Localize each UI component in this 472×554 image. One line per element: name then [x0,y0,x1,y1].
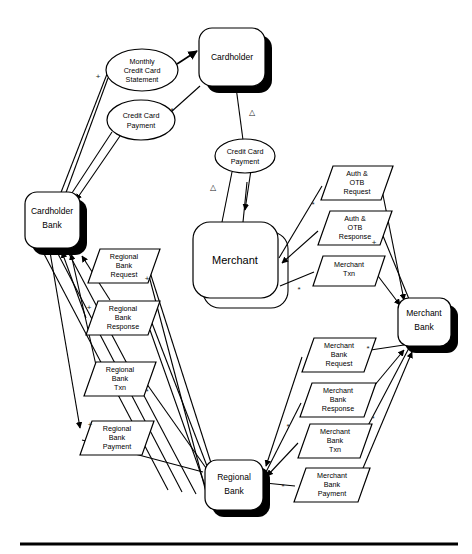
mb-response-line-2: Bank [330,395,347,404]
edge-ccpayment-from-cardholder [171,86,200,112]
edge-mb-payment-out [358,352,412,480]
marker-star-6: * [371,414,374,423]
regional-bank-label-2: Bank [224,486,244,496]
flow-regional-bank-response[interactable]: Regional Bank Response [86,301,160,335]
edge-statement-lead [64,78,108,198]
marker-plus-2: + [372,238,377,247]
marker-plus-1: + [96,72,101,81]
mb-request-line-1: Merchant [324,341,354,350]
process-cardholder[interactable]: Cardholder [199,28,272,93]
marker-star-5: * [366,344,369,353]
merchant-label: Merchant [212,254,258,266]
mb-payment-line-3: Payment [318,489,346,498]
process-cardholder-bank[interactable]: Cardholder Bank [25,192,87,255]
rb-response-line-1: Regional [109,304,138,313]
marker-delta-2: △ [210,183,217,192]
datastore-credit-card-payment-mid[interactable]: Credit Card Payment [215,139,275,173]
rb-request-line-3: Request [111,270,138,279]
marker-star-3: * [297,285,300,294]
process-regional-bank[interactable]: Regional Bank [205,460,270,517]
mb-payment-line-1: Merchant [317,471,347,480]
ccpayment-left-line-2: Payment [127,121,155,130]
marker-plus-3: + [145,274,150,283]
mb-response-line-3: Response [322,404,354,413]
marker-star-8: * [286,422,289,431]
edge-auth-otb-request-out [380,180,404,300]
auth-otb-response-line-3: Response [339,232,371,241]
rb-response-line-3: Response [107,322,139,331]
mb-payment-line-2: Bank [324,480,341,489]
merchant-txn-line-1: Merchant [334,260,364,269]
marker-plus-4: + [87,303,92,312]
ccpayment-mid-line-2: Payment [231,157,259,166]
regional-bank-box [205,460,263,510]
cardholder-bank-label-1: Cardholder [31,206,73,216]
marker-star-4: * [145,387,148,396]
flow-merchant-bank-payment[interactable]: Merchant Bank Payment [294,468,370,502]
edge-merchant-txn-in [280,272,314,286]
flow-auth-otb-request[interactable]: Auth & OTB Request [321,166,393,200]
ccpayment-left-line-1: Credit Card [123,111,160,120]
marker-star-1: * [170,106,173,115]
edge-merchant-txn-out [375,272,400,305]
ccpayment-mid-line-1: Credit Card [227,147,264,156]
edge-rb-response-in [150,318,207,466]
mb-txn-line-1: Merchant [320,427,350,436]
marker-star-2: * [311,200,314,209]
merchant-bank-label-1: Merchant [406,308,442,318]
rb-txn-line-2: Bank [112,374,129,383]
edge-rb-payment-out [50,252,80,428]
edge-bundle-e [150,330,208,494]
regional-bank-label-1: Regional [217,472,251,482]
flow-auth-otb-response[interactable]: Auth & OTB Response [318,211,392,245]
flow-merchant-txn[interactable]: Merchant Txn [313,256,385,286]
marker-plus-5: + [88,420,93,429]
auth-otb-request-line-3: Request [344,187,371,196]
edge-cardholder-to-ccpayment-mid [236,87,243,140]
monthly-statement-line-2: Credit Card [124,66,161,75]
datastore-credit-card-payment-left[interactable]: Credit Card Payment [107,100,175,140]
auth-otb-request-line-2: OTB [350,178,365,187]
process-merchant[interactable]: Merchant [193,222,288,308]
datastore-monthly-credit-card-statement[interactable]: Monthly Credit Card Statement [106,49,178,91]
cardholder-label: Cardholder [211,52,253,62]
auth-otb-request-line-1: Auth & [346,169,368,178]
mb-txn-line-3: Txn [329,445,341,454]
monthly-statement-line-3: Statement [126,75,159,84]
rb-payment-line-1: Regional [103,424,132,433]
data-flow-diagram-canvas: Cardholder Cardholder Bank Merchant Merc… [0,0,472,554]
edge-ccpayment-mid-to-merchant-a [222,172,232,222]
rb-response-line-2: Bank [115,313,132,322]
rb-txn-line-1: Regional [106,365,135,374]
merchant-bank-label-2: Bank [414,322,434,332]
marker-delta-1: △ [249,108,256,117]
edge-auth-otb-response-in [381,231,409,299]
cardholder-bank-label-2: Bank [42,220,62,230]
mb-request-line-2: Bank [331,350,348,359]
flow-merchant-bank-request[interactable]: Merchant Bank Request [302,338,376,372]
mb-response-line-1: Merchant [323,386,353,395]
edge-ccpayment-to-bank-b [76,136,120,200]
merchant-txn-line-2: Txn [343,269,355,278]
marker-star-7: * [281,482,284,491]
auth-otb-response-line-1: Auth & [344,214,366,223]
monthly-statement-line-1: Monthly [129,57,155,66]
auth-otb-response-line-2: OTB [348,223,363,232]
edge-statement-to-cardholder [177,51,197,64]
rb-request-line-1: Regional [110,252,139,261]
edge-statement-from-bank [60,74,107,195]
mb-txn-line-2: Bank [327,436,344,445]
mb-request-line-3: Request [326,359,353,368]
rb-txn-line-3: Txn [114,383,126,392]
process-merchant-bank[interactable]: Merchant Bank [398,298,458,353]
flow-merchant-bank-txn[interactable]: Merchant Bank Txn [298,424,372,458]
rb-request-line-2: Bank [116,261,133,270]
rb-payment-line-3: Payment [103,442,131,451]
flow-merchant-bank-response[interactable]: Merchant Bank Response [300,383,376,417]
rb-payment-line-2: Bank [109,433,126,442]
